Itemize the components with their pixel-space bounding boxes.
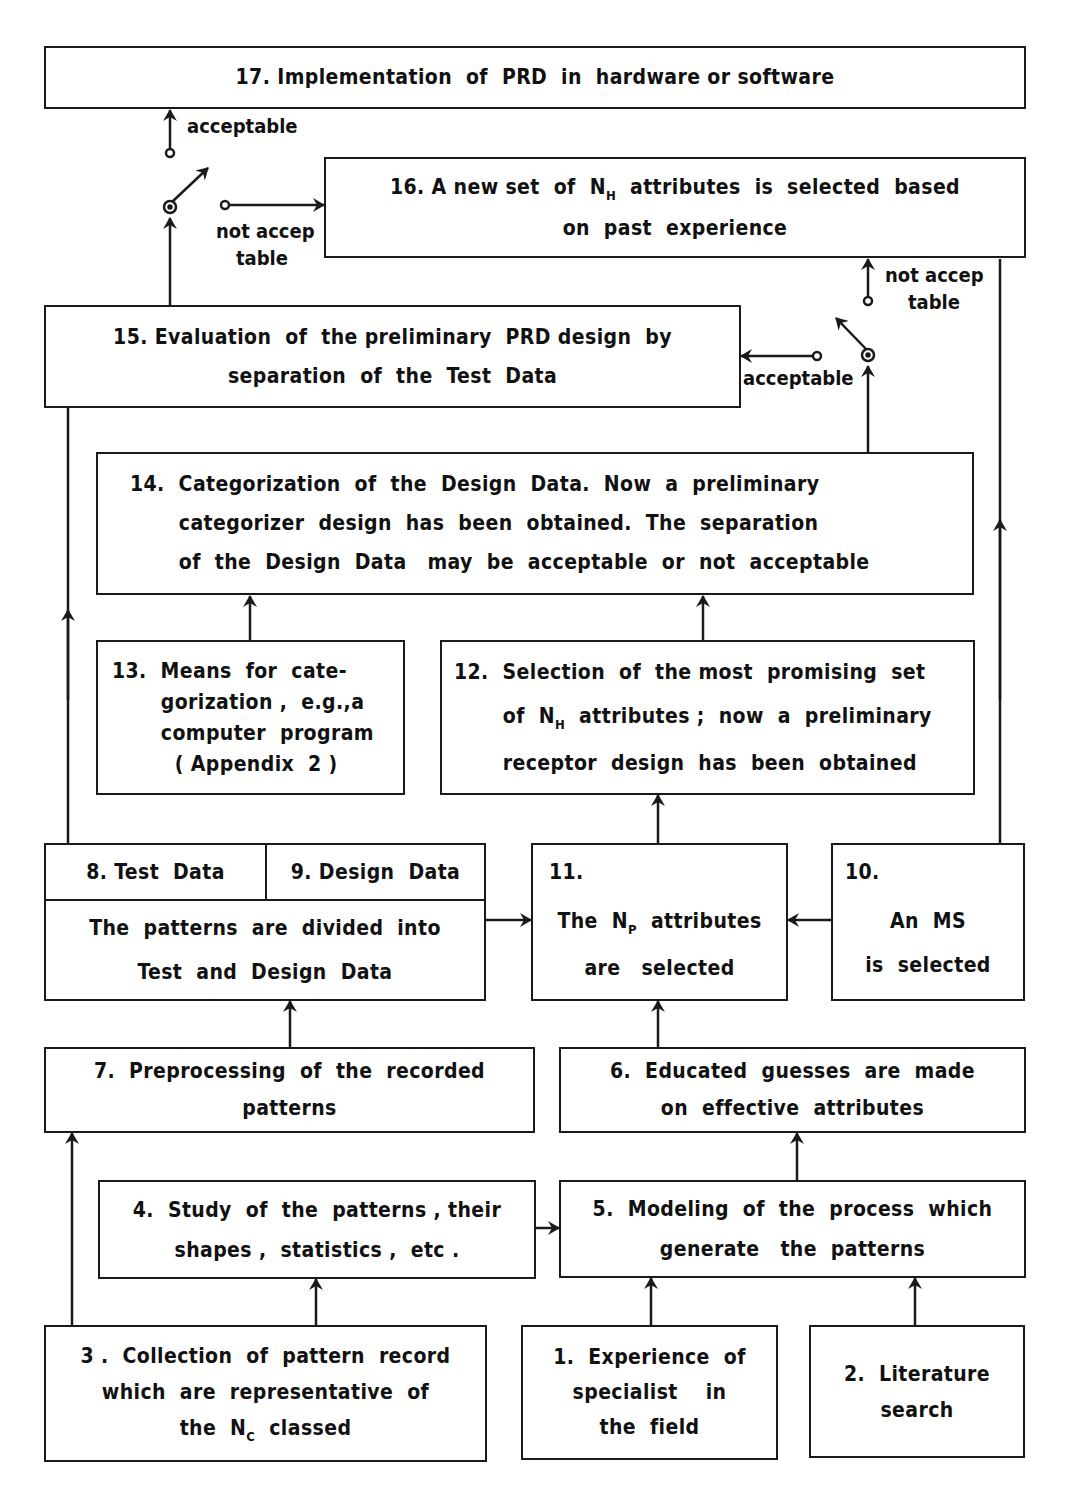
label-right-acceptable: acceptable	[743, 366, 854, 390]
box-4-study-patterns: 4. Study of the patterns , their shapes …	[98, 1180, 536, 1279]
box-9-design-data: 9. Design Data	[267, 845, 484, 899]
box-7-line-1: 7. Preprocessing of the recorded	[46, 1053, 533, 1090]
box-5-modeling-process: 5. Modeling of the process which generat…	[559, 1180, 1026, 1278]
box-12-selection-attributes: 12. Selection of the most promising set …	[440, 640, 975, 795]
box-3-line-3-pre: the N	[180, 1416, 247, 1440]
box-4-line-1: 4. Study of the patterns , their	[100, 1190, 534, 1230]
box-8-9-body: The patterns are divided into Test and D…	[46, 901, 484, 999]
box-12-line-2-post: attributes ; now a preliminary	[565, 704, 932, 728]
box-10-number: 10.	[833, 845, 1023, 899]
box-8-9-line-2: Test and Design Data	[46, 950, 484, 994]
box-14-line-1: 14. Categorization of the Design Data. N…	[130, 465, 972, 504]
subscript-p: P	[628, 922, 637, 937]
box-3-line-1: 3 . Collection of pattern record	[46, 1338, 485, 1374]
box-16-new-attributes: 16. A new set of NH attributes is select…	[324, 157, 1026, 258]
box-1-line-3: the field	[523, 1410, 776, 1445]
box-11-line-1-post: attributes	[637, 909, 762, 933]
switch-right-icon	[860, 347, 876, 363]
box-2-line-2: search	[811, 1392, 1023, 1428]
box-15-line-2: separation of the Test Data	[46, 357, 739, 396]
box-10-ms-selected: 10. An MS is selected	[831, 843, 1025, 1001]
box-8-9-line-1: The patterns are divided into	[46, 906, 484, 950]
box-5-line-1: 5. Modeling of the process which	[561, 1189, 1024, 1229]
switch-top-icon	[162, 199, 178, 215]
label-top-not-acceptable-2: table	[236, 246, 288, 270]
box-11-np-attributes: 11. The NP attributes are selected	[531, 843, 788, 1001]
box-6-line-2: on effective attributes	[561, 1090, 1024, 1127]
box-13-line-3: computer program	[112, 718, 403, 749]
box-13-line-1: 13. Means for cate-	[112, 656, 403, 687]
box-13-means-categorization: 13. Means for cate- gorization , e.g.,a …	[96, 640, 405, 795]
box-6-educated-guesses: 6. Educated guesses are made on effectiv…	[559, 1047, 1026, 1133]
box-12-line-2-pre: of N	[454, 704, 555, 728]
box-3-line-3-post: classed	[255, 1416, 351, 1440]
box-10-line-2: is selected	[833, 943, 1023, 987]
box-1-specialist-experience: 1. Experience of specialist in the field	[521, 1325, 778, 1460]
box-3-line-2: which are representative of	[46, 1374, 485, 1410]
box-3-line-3: the NC classed	[46, 1410, 485, 1449]
box-1-line-2: specialist in	[523, 1375, 776, 1410]
box-16-line-1: 16. A new set of NH attributes is select…	[326, 168, 1024, 209]
box-8-9-header: 8. Test Data 9. Design Data	[46, 845, 484, 901]
label-right-not-acceptable-2: table	[908, 290, 960, 314]
label-right-not-acceptable-1: not accep	[885, 263, 984, 287]
subscript-h: H	[555, 717, 565, 732]
box-7-line-2: patterns	[46, 1090, 533, 1127]
box-12-line-1: 12. Selection of the most promising set	[454, 650, 973, 694]
box-13-line-4: ( Appendix 2 )	[112, 749, 403, 780]
box-13-line-2: gorization , e.g.,a	[112, 687, 403, 718]
box-1-line-1: 1. Experience of	[523, 1340, 776, 1375]
label-top-acceptable: acceptable	[187, 114, 298, 138]
box-11-line-1-pre: The N	[557, 909, 628, 933]
box-2-literature-search: 2. Literature search	[809, 1325, 1025, 1458]
box-14-line-3: of the Design Data may be acceptable or …	[130, 543, 972, 582]
box-11-line-2: are selected	[533, 946, 786, 990]
box-16-line-1-post: attributes is selected based	[616, 175, 960, 199]
box-12-line-2: of NH attributes ; now a preliminary	[454, 694, 973, 741]
box-5-line-2: generate the patterns	[561, 1229, 1024, 1269]
box-15-line-1: 15. Evaluation of the preliminary PRD de…	[46, 318, 739, 357]
box-8-9-divided-data: 8. Test Data 9. Design Data The patterns…	[44, 843, 486, 1001]
box-11-number: 11.	[533, 845, 786, 899]
box-4-line-2: shapes , statistics , etc .	[100, 1230, 534, 1270]
box-14-line-2: categorizer design has been obtained. Th…	[130, 504, 972, 543]
subscript-h: H	[606, 188, 616, 203]
box-6-line-1: 6. Educated guesses are made	[561, 1053, 1024, 1090]
box-17-text: 17. Implementation of PRD in hardware or…	[46, 58, 1024, 97]
box-10-line-1: An MS	[833, 899, 1023, 943]
box-7-preprocessing: 7. Preprocessing of the recorded pattern…	[44, 1047, 535, 1133]
box-11-line-1: The NP attributes	[533, 899, 786, 946]
box-15-evaluation: 15. Evaluation of the preliminary PRD de…	[44, 305, 741, 408]
box-2-line-1: 2. Literature	[811, 1356, 1023, 1392]
box-16-line-1-pre: 16. A new set of N	[390, 175, 606, 199]
label-top-not-acceptable-1: not accep	[216, 219, 315, 243]
box-17-implementation: 17. Implementation of PRD in hardware or…	[44, 46, 1026, 109]
box-3-collection-records: 3 . Collection of pattern record which a…	[44, 1325, 487, 1462]
box-12-line-3: receptor design has been obtained	[454, 741, 973, 785]
box-14-categorization: 14. Categorization of the Design Data. N…	[96, 452, 974, 595]
subscript-c: C	[246, 1429, 255, 1444]
box-8-test-data: 8. Test Data	[46, 845, 267, 899]
box-16-line-2: on past experience	[326, 209, 1024, 248]
